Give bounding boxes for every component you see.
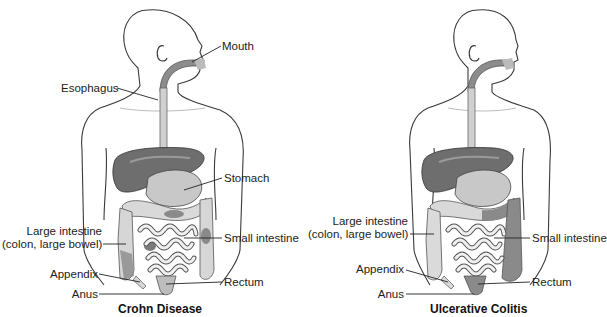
label-stomach: Stomach bbox=[224, 172, 269, 185]
caption-ulcerative-colitis: Ulcerative Colitis bbox=[430, 302, 527, 316]
label-anus: Anus bbox=[50, 288, 98, 301]
label-large-intestine-alias: (colon, large bowel) bbox=[2, 238, 102, 251]
crohn-disease-panel: Mouth Esophagus Stomach Large intestine … bbox=[0, 0, 302, 317]
label-large-intestine: Large intestine bbox=[2, 225, 102, 238]
label-small-intestine: Small intestine bbox=[532, 232, 607, 245]
label-mouth: Mouth bbox=[222, 40, 254, 53]
label-large-intestine: Large intestine bbox=[308, 215, 408, 228]
label-rectum: Rectum bbox=[224, 276, 264, 289]
ulcerative-colitis-panel: Large intestine (colon, large bowel) Sma… bbox=[302, 0, 604, 317]
label-anus: Anus bbox=[356, 288, 404, 301]
label-large-intestine-alias: (colon, large bowel) bbox=[308, 228, 408, 241]
label-rectum: Rectum bbox=[532, 276, 572, 289]
label-appendix: Appendix bbox=[336, 263, 404, 276]
label-small-intestine: Small intestine bbox=[224, 232, 299, 245]
label-appendix: Appendix bbox=[30, 268, 98, 281]
label-esophagus: Esophagus bbox=[61, 82, 115, 95]
caption-crohn-disease: Crohn Disease bbox=[118, 302, 202, 316]
